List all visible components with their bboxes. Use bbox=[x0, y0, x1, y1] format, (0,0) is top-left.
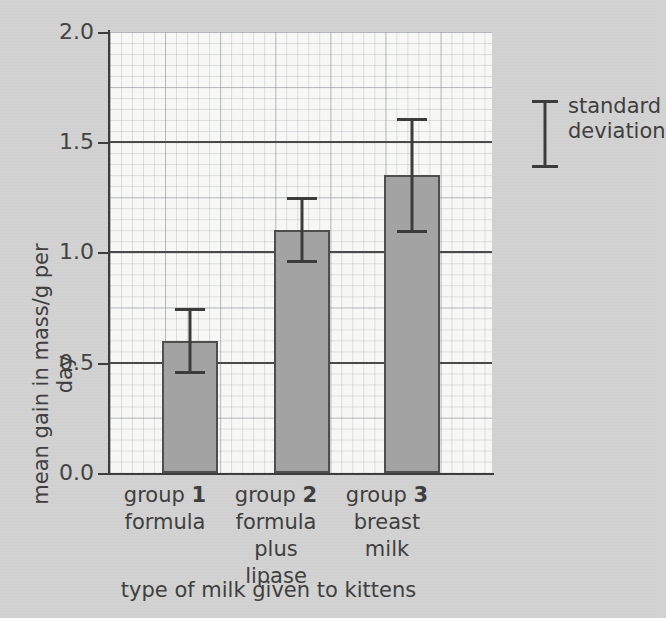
legend-label: standard deviation bbox=[568, 94, 666, 144]
x-label-prefix: group bbox=[235, 483, 303, 507]
error-bar-stem bbox=[189, 308, 192, 374]
error-bar-cap-bottom bbox=[175, 371, 205, 374]
error-bar-cap-bottom bbox=[287, 260, 317, 263]
error-bar-group-3 bbox=[384, 118, 440, 233]
error-bar-stem bbox=[301, 197, 304, 263]
x-label-group-1: group 1 formula bbox=[110, 482, 220, 536]
error-bar-cap-bottom bbox=[532, 165, 558, 168]
x-label-group-3: group 3 breast milk bbox=[332, 482, 442, 563]
y-axis-title: mean gain in mass/g per day bbox=[29, 224, 77, 524]
x-label-group-3-desc1: breast bbox=[332, 509, 442, 536]
error-bar-stem bbox=[411, 118, 414, 233]
x-label-group-2-name: group 2 bbox=[235, 483, 317, 507]
error-bar-group-2 bbox=[274, 197, 330, 263]
y-tick-0-5 bbox=[98, 363, 108, 365]
x-label-group-2-desc1: formula bbox=[221, 509, 331, 536]
y-axis-title-wrapper: mean gain in mass/g per day bbox=[18, 100, 52, 400]
error-bar-cap-top bbox=[287, 197, 317, 200]
error-bar-cap-bottom bbox=[397, 230, 427, 233]
legend-label-line2: deviation bbox=[568, 119, 666, 144]
y-tick-2-0 bbox=[98, 32, 108, 34]
error-bar-cap-top bbox=[175, 308, 205, 311]
plot-area bbox=[110, 32, 492, 473]
x-label-number: 3 bbox=[414, 483, 429, 507]
legend: standard deviation bbox=[520, 96, 655, 172]
x-axis-line bbox=[108, 473, 494, 475]
x-label-group-1-desc1: formula bbox=[110, 509, 220, 536]
y-tick-0-0 bbox=[98, 473, 108, 475]
error-bar-stem bbox=[544, 100, 547, 168]
legend-label-line1: standard bbox=[568, 94, 666, 119]
x-label-number: 1 bbox=[192, 483, 207, 507]
error-bar-icon bbox=[530, 100, 560, 168]
error-bar-cap-top bbox=[397, 118, 427, 121]
y-tick-1-5 bbox=[98, 142, 108, 144]
x-label-group-2: group 2 formula plus lipase bbox=[221, 482, 331, 590]
x-label-number: 2 bbox=[303, 483, 318, 507]
y-tick-label-2-0: 2.0 bbox=[32, 21, 94, 43]
error-bar-group-1 bbox=[162, 308, 218, 374]
x-axis-title: type of milk given to kittens bbox=[60, 578, 477, 602]
x-label-group-3-name: group 3 bbox=[346, 483, 428, 507]
x-label-group-1-name: group 1 bbox=[124, 483, 206, 507]
x-label-prefix: group bbox=[346, 483, 414, 507]
x-label-prefix: group bbox=[124, 483, 192, 507]
x-label-group-3-desc2: milk bbox=[332, 536, 442, 563]
bar-group-2 bbox=[274, 230, 330, 473]
error-bar-cap-top bbox=[532, 100, 558, 103]
y-axis-line bbox=[108, 30, 110, 475]
y-tick-1-0 bbox=[98, 252, 108, 254]
